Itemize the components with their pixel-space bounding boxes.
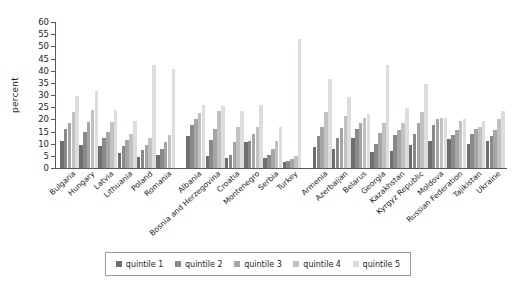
bar-group xyxy=(486,22,505,168)
bar-group xyxy=(370,22,389,168)
legend-swatch-icon xyxy=(234,261,240,267)
bar-group xyxy=(137,22,156,168)
legend-swatch-icon xyxy=(293,261,299,267)
y-axis-tick xyxy=(51,59,55,60)
legend-label: quintile 4 xyxy=(303,260,341,269)
y-axis-tick-label: 0 xyxy=(25,163,49,173)
y-axis-tick xyxy=(51,144,55,145)
legend-swatch-icon xyxy=(116,261,122,267)
bar-group xyxy=(428,22,447,168)
bar xyxy=(501,111,505,168)
bar-group xyxy=(351,22,370,168)
y-axis-tick xyxy=(51,34,55,35)
bar-series-container xyxy=(56,22,507,168)
y-axis-tick-label: 20 xyxy=(25,114,49,124)
y-axis-tick xyxy=(51,71,55,72)
bar-group xyxy=(206,22,225,168)
legend-swatch-icon xyxy=(353,261,359,267)
y-axis-title-text: percent xyxy=(10,77,20,113)
y-axis-tick-label: 10 xyxy=(25,139,49,149)
y-axis-tick xyxy=(51,46,55,47)
y-axis-tick xyxy=(51,22,55,23)
legend-label: quintile 2 xyxy=(185,260,223,269)
y-axis-tick-label: 25 xyxy=(25,102,49,112)
y-axis-tick-label: 40 xyxy=(25,66,49,76)
y-axis-tick xyxy=(51,107,55,108)
plot-area: 051015202530354045505560 xyxy=(55,22,507,168)
y-axis-tick-label: 50 xyxy=(25,41,49,51)
bar-group xyxy=(313,22,332,168)
legend-item[interactable]: quintile 3 xyxy=(234,260,282,269)
legend-item[interactable]: quintile 5 xyxy=(353,260,401,269)
y-axis-tick-label: 55 xyxy=(25,29,49,39)
x-axis-labels: BulgariaHungaryLatviaLithuaniaPolandRoma… xyxy=(55,170,515,232)
y-axis-tick-label: 30 xyxy=(25,90,49,100)
y-axis-title: percent xyxy=(8,52,22,138)
bar-group xyxy=(98,22,117,168)
y-axis-tick xyxy=(51,95,55,96)
bar-group xyxy=(467,22,486,168)
y-axis-tick xyxy=(51,168,55,169)
bar xyxy=(298,39,302,168)
y-axis-tick-label: 35 xyxy=(25,78,49,88)
bar-group xyxy=(225,22,244,168)
bar-group xyxy=(118,22,137,168)
y-axis-tick xyxy=(51,83,55,84)
bar-group xyxy=(447,22,466,168)
bar-group xyxy=(60,22,79,168)
legend-item[interactable]: quintile 4 xyxy=(293,260,341,269)
bar-group xyxy=(409,22,428,168)
y-axis-tick-label: 15 xyxy=(25,127,49,137)
y-axis-tick xyxy=(51,119,55,120)
bar-group xyxy=(263,22,282,168)
bar xyxy=(172,69,176,168)
legend-label: quintile 1 xyxy=(126,260,164,269)
y-axis-tick xyxy=(51,156,55,157)
bar-group xyxy=(79,22,98,168)
y-axis-tick xyxy=(51,132,55,133)
chart-figure: percent 051015202530354045505560 Bulgari… xyxy=(0,0,516,294)
y-axis-tick-label: 5 xyxy=(25,151,49,161)
bar-group xyxy=(244,22,263,168)
bar-group xyxy=(156,22,175,168)
legend-label: quintile 5 xyxy=(363,260,401,269)
x-axis-label: Turkey xyxy=(276,170,299,192)
bar-group xyxy=(332,22,351,168)
legend-label: quintile 3 xyxy=(244,260,282,269)
chart-legend: quintile 1quintile 2quintile 3quintile 4… xyxy=(105,252,411,276)
legend-item[interactable]: quintile 2 xyxy=(175,260,223,269)
bar-group xyxy=(186,22,205,168)
bar-group xyxy=(390,22,409,168)
y-axis-tick-label: 45 xyxy=(25,54,49,64)
y-axis-tick-label: 60 xyxy=(25,17,49,27)
bar-group xyxy=(283,22,302,168)
legend-swatch-icon xyxy=(175,261,181,267)
legend-item[interactable]: quintile 1 xyxy=(116,260,164,269)
